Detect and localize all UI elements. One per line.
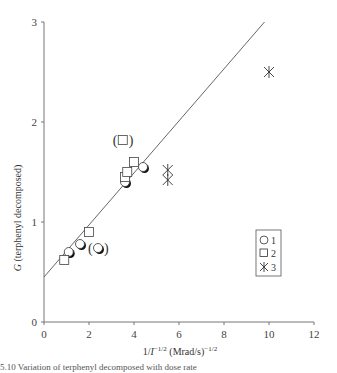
y-tick-label: 2 <box>32 116 38 128</box>
legend-circle-icon <box>260 236 268 244</box>
legend: 1 2 3 <box>256 230 281 276</box>
y-tick-label: 3 <box>32 16 38 28</box>
x-tick-label: 6 <box>176 328 182 340</box>
legend-square-icon <box>260 249 268 257</box>
circle-marker <box>76 240 87 251</box>
square-marker <box>85 228 94 237</box>
figure-caption: 5.10 Variation of terphenyl decomposed w… <box>0 362 197 372</box>
x-tick-label: 4 <box>131 328 137 340</box>
svg-text:1: 1 <box>271 235 276 246</box>
x-tick-label: 12 <box>309 328 320 340</box>
series-1: () <box>64 163 149 259</box>
svg-text:1/I−1/2 (Mrad/s)−1/2: 1/I−1/2 (Mrad/s)−1/2 <box>143 345 218 358</box>
svg-text:(: ( <box>113 133 118 149</box>
x-tick-label: 10 <box>264 328 276 340</box>
axis-ticks: 0246810120123 <box>32 16 320 340</box>
y-tick-label: 1 <box>32 216 38 228</box>
svg-text:2: 2 <box>271 248 276 259</box>
data-points: ()() <box>60 66 274 265</box>
circle-marker <box>139 163 150 174</box>
fit-line <box>44 22 265 277</box>
asterisk-marker <box>163 164 173 176</box>
square-marker <box>130 158 139 167</box>
svg-text:(: ( <box>88 241 93 257</box>
svg-text:): ) <box>129 133 134 149</box>
asterisk-marker <box>264 66 274 78</box>
y-axis-title: G (terphenyl decomposed) <box>12 165 24 272</box>
square-marker <box>60 256 69 265</box>
series-3 <box>163 66 274 186</box>
x-tick-label: 2 <box>86 328 92 340</box>
square-marker <box>123 168 132 177</box>
bracketed-square-marker: () <box>113 133 134 149</box>
svg-text:3: 3 <box>271 262 276 273</box>
x-axis-title: 1/I−1/2 (Mrad/s)−1/2 <box>143 345 218 358</box>
svg-text:): ) <box>104 241 109 257</box>
svg-text:G (terphenyl decomposed): G (terphenyl decomposed) <box>12 165 24 272</box>
x-tick-label: 0 <box>41 328 47 340</box>
bracketed-circle-marker: () <box>88 241 109 257</box>
x-tick-label: 8 <box>221 328 227 340</box>
y-tick-label: 0 <box>32 316 38 328</box>
scatter-chart: 0246810120123 ()() G (terphenyl decompos… <box>0 0 337 373</box>
